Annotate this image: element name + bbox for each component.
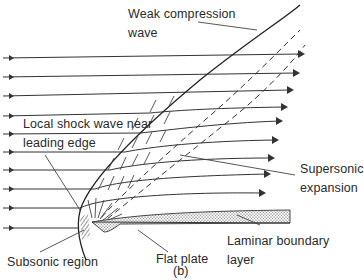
label-local-shock-wave: Local shock wave near leading edge (23, 115, 152, 153)
label-supersonic-expansion: Supersonic expansion (300, 160, 364, 198)
label-subsonic-region: Subsonic region (7, 253, 98, 272)
subsonic-region (80, 213, 90, 240)
label-laminar-boundary-layer: Laminar boundary layer (227, 232, 329, 270)
outlet-arrowheads (259, 50, 305, 197)
inlet-arrowheads (9, 55, 14, 231)
laminar-boundary-layer (92, 210, 290, 232)
figure-caption: (b) (173, 262, 189, 280)
label-weak-compression-wave: Weak compression wave (128, 5, 236, 43)
